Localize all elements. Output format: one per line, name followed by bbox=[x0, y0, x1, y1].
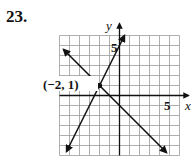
graph-line-1 bbox=[64, 50, 167, 153]
x-tick-5: 5 bbox=[164, 98, 171, 113]
y-tick-5: 5 bbox=[111, 40, 118, 55]
x-axis-label: x bbox=[184, 98, 191, 113]
y-axis-label: y bbox=[104, 18, 112, 33]
coordinate-plane: y x 5 5 (−2, 1) bbox=[0, 0, 194, 163]
intersection-label: (−2, 1) bbox=[43, 77, 79, 92]
